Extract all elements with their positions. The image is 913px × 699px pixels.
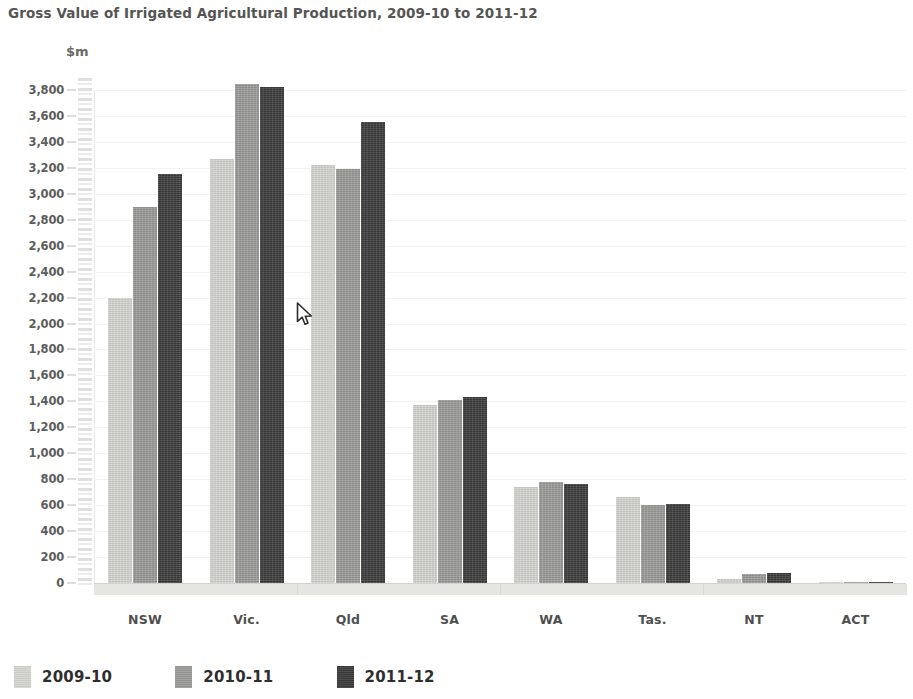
x-axis-tick-label: NT xyxy=(704,612,804,627)
x-axis-tick-label: ACT xyxy=(806,612,906,627)
y-axis-tick-label: 400 xyxy=(41,524,64,538)
bar[interactable] xyxy=(514,487,538,583)
x-axis-tick-label: Vic. xyxy=(197,612,297,627)
y-axis-tick-label: 1,200 xyxy=(29,420,64,434)
bar[interactable] xyxy=(641,505,665,583)
x-axis-tick-label: WA xyxy=(501,612,601,627)
y-axis-tick-label: 600 xyxy=(41,498,64,512)
bar[interactable] xyxy=(413,405,437,583)
y-axis-tick-mark xyxy=(67,141,76,142)
bar[interactable] xyxy=(539,482,563,583)
bar[interactable] xyxy=(564,484,588,583)
bar[interactable] xyxy=(361,122,385,583)
bar[interactable] xyxy=(311,165,335,583)
bar[interactable] xyxy=(438,400,462,583)
axis-shadow-band xyxy=(602,584,704,595)
y-axis-tick-mark xyxy=(67,167,76,168)
bar[interactable] xyxy=(666,504,690,583)
bar-group xyxy=(311,90,385,583)
y-axis-tick-mark xyxy=(67,193,76,194)
x-axis-tick-label: Qld xyxy=(298,612,398,627)
axis-shadow-band xyxy=(94,584,196,595)
y-axis-tick-label: 2,000 xyxy=(29,317,64,331)
y-axis-tick-label: 2,200 xyxy=(29,291,64,305)
y-axis-tick-mark xyxy=(67,90,76,91)
y-axis-tick-mark xyxy=(67,583,76,584)
legend-swatch-icon xyxy=(175,666,192,688)
y-axis-tick-label: 1,400 xyxy=(29,394,64,408)
bar[interactable] xyxy=(260,87,284,583)
bar[interactable] xyxy=(108,298,132,583)
y-axis-tick-mark xyxy=(67,453,76,454)
y-axis-tick-mark xyxy=(67,115,76,116)
y-axis-tick-label: 3,200 xyxy=(29,161,64,175)
plot-left-rule xyxy=(94,90,95,583)
legend-label: 2011-12 xyxy=(365,668,435,686)
x-axis-tick-label: Tas. xyxy=(603,612,703,627)
y-axis-tick-label: 3,400 xyxy=(29,135,64,149)
x-axis-tick-label: SA xyxy=(400,612,500,627)
y-axis-tick-mark xyxy=(67,349,76,350)
legend-spacer xyxy=(274,677,337,678)
legend-spacer xyxy=(112,677,175,678)
legend-item[interactable]: 2010-11 xyxy=(175,666,273,688)
y-axis-tick-label: 0 xyxy=(56,576,64,590)
bar[interactable] xyxy=(767,573,791,583)
y-axis-tick-mark xyxy=(67,479,76,480)
x-axis-tick-label: NSW xyxy=(95,612,195,627)
bar-group xyxy=(819,90,893,583)
y-axis-tick-label: 3,800 xyxy=(29,83,64,97)
y-axis-tick-label: 1,600 xyxy=(29,368,64,382)
bar-group xyxy=(514,90,588,583)
y-axis-tick-mark xyxy=(67,505,76,506)
y-axis: 3,8003,6003,4003,2003,0002,8002,6002,400… xyxy=(0,0,94,699)
axis-shadow-band xyxy=(196,584,298,595)
bar[interactable] xyxy=(463,397,487,583)
axis-shadow-band xyxy=(399,584,501,595)
y-axis-tick-mark xyxy=(67,427,76,428)
y-axis-tick-label: 2,600 xyxy=(29,239,64,253)
plot-area xyxy=(94,90,906,583)
bar[interactable] xyxy=(158,174,182,583)
legend-label: 2010-11 xyxy=(203,668,273,686)
y-axis-tick-label: 2,400 xyxy=(29,265,64,279)
bar-group xyxy=(616,90,690,583)
y-axis-tick-mark xyxy=(67,323,76,324)
legend-swatch-icon xyxy=(14,666,31,688)
y-axis-tick-label: 1,000 xyxy=(29,446,64,460)
y-axis-tick-mark xyxy=(67,401,76,402)
bar-group xyxy=(108,90,182,583)
legend-item[interactable]: 2011-12 xyxy=(337,666,435,688)
y-axis-tick-label: 3,000 xyxy=(29,187,64,201)
y-axis-tick-label: 800 xyxy=(41,472,64,486)
bar[interactable] xyxy=(210,159,234,583)
y-axis-tick-label: 200 xyxy=(41,550,64,564)
bar[interactable] xyxy=(742,574,766,583)
axis-shadow-band xyxy=(297,584,399,595)
y-axis-tick-label: 1,800 xyxy=(29,342,64,356)
y-axis-tick-mark xyxy=(67,531,76,532)
y-axis-tick-mark xyxy=(67,297,76,298)
bar[interactable] xyxy=(336,169,360,583)
y-axis-tick-mark xyxy=(67,219,76,220)
y-axis-tick-mark xyxy=(67,245,76,246)
y-axis-tick-mark xyxy=(67,271,76,272)
bar-group xyxy=(717,90,791,583)
y-axis-tick-label: 2,800 xyxy=(29,213,64,227)
axis-shadow-band xyxy=(500,584,602,595)
bar-group xyxy=(413,90,487,583)
legend-label: 2009-10 xyxy=(42,668,112,686)
y-axis-tick-mark xyxy=(67,557,76,558)
y-axis-tick-label: 3,600 xyxy=(29,109,64,123)
bar[interactable] xyxy=(616,497,640,583)
legend-item[interactable]: 2009-10 xyxy=(14,666,112,688)
y-axis-tick-mark xyxy=(67,375,76,376)
bar[interactable] xyxy=(235,84,259,583)
axis-shadow-band xyxy=(703,584,805,595)
bar[interactable] xyxy=(133,207,157,583)
legend-swatch-icon xyxy=(337,666,354,688)
bar-group xyxy=(210,90,284,583)
axis-shadow-band xyxy=(805,584,907,595)
chart-legend: 2009-102010-112011-12 xyxy=(14,662,435,692)
